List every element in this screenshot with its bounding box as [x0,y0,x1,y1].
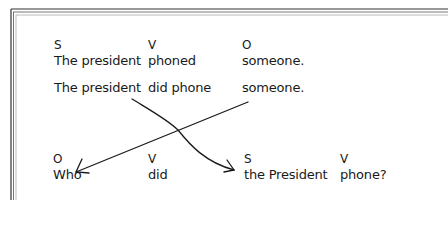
question-label-v: V [148,152,156,166]
sentence1-object: someone. [242,54,304,68]
sentence1-verb: phoned [148,54,196,68]
question-label-s: S [244,152,251,166]
label-v: V [148,38,156,52]
question-verb: phone? [340,168,386,182]
question-subject: the President [244,168,328,182]
label-o: O [242,38,251,52]
sentence2-verb: did phone [148,81,211,95]
question-label-v2: V [340,152,348,166]
label-s: S [54,38,61,52]
sentence2-subject: The president [54,81,141,95]
question-object: Who [53,168,81,182]
question-aux: did [148,168,168,182]
straight-arrow-object [76,102,248,173]
question-label-o: O [53,152,62,166]
sentence2-object: someone. [242,81,304,95]
sentence1-subject: The president [54,54,141,68]
